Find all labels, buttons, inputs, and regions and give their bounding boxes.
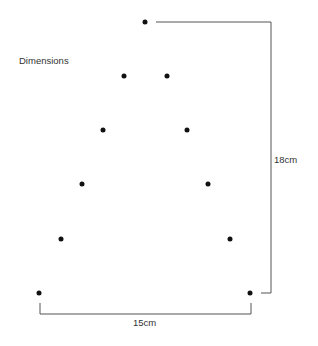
dot-marker <box>59 237 64 242</box>
dimension-lines <box>0 0 318 346</box>
height-dimension-bracket <box>156 22 271 293</box>
dot-marker <box>101 128 106 133</box>
dot-marker <box>165 74 170 79</box>
dot-marker <box>185 128 190 133</box>
height-label: 18cm <box>274 154 297 165</box>
dot-marker <box>228 237 233 242</box>
dot-marker <box>80 182 85 187</box>
dot-marker <box>143 20 148 25</box>
width-label: 15cm <box>133 317 156 328</box>
dot-marker <box>206 182 211 187</box>
dot-marker <box>248 291 253 296</box>
dot-marker <box>37 291 42 296</box>
dot-marker <box>122 74 127 79</box>
width-dimension-bracket <box>40 303 251 314</box>
